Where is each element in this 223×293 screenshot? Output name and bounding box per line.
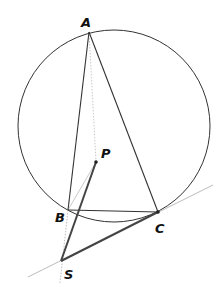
label-P: P — [101, 146, 111, 161]
label-C: C — [155, 221, 165, 236]
label-B: B — [55, 210, 65, 225]
label-S: S — [64, 267, 73, 282]
circumcircle — [18, 30, 210, 222]
side-BC — [68, 210, 158, 212]
geometry-diagram: A P B C S — [0, 0, 223, 293]
label-A: A — [80, 15, 91, 30]
line-AP — [89, 32, 96, 162]
side-AC — [89, 32, 158, 212]
point-C — [156, 210, 160, 214]
side-AB — [68, 32, 89, 210]
point-P — [94, 160, 98, 164]
